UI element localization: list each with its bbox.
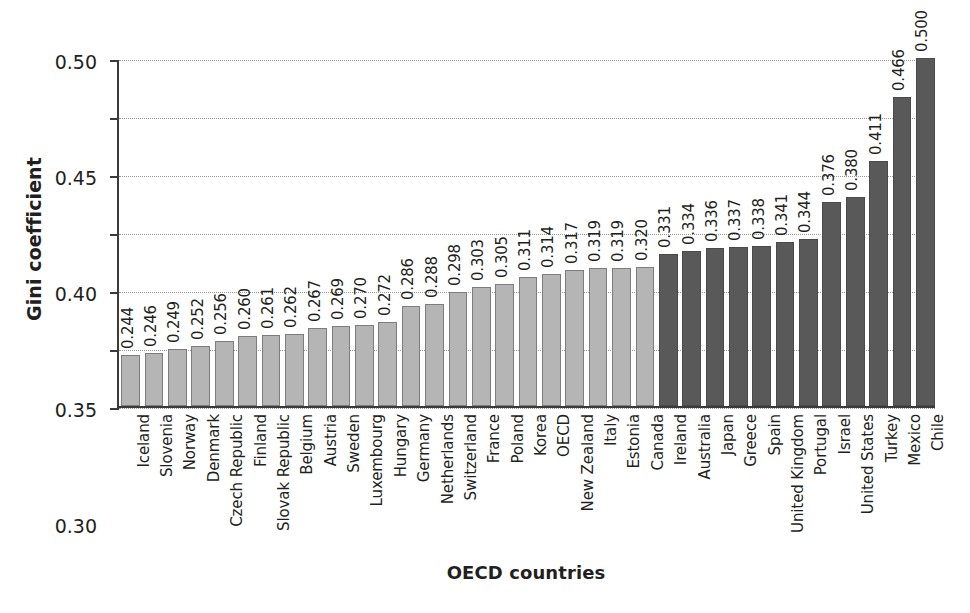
bar-slot: 0.341 [776,60,795,406]
bar[interactable] [191,346,210,406]
bar-value-label: 0.270 [352,277,370,319]
bar[interactable] [378,322,397,406]
bar[interactable] [752,246,771,406]
bar-slot: 0.319 [589,60,608,406]
bar-slot: 0.317 [565,60,584,406]
bar[interactable] [589,268,608,406]
bar[interactable] [542,274,561,406]
bar[interactable] [729,247,748,406]
bar-slot: 0.500 [916,60,935,406]
bar-value-label: 0.261 [259,287,277,329]
bar-value-label: 0.311 [516,229,534,271]
bar[interactable] [612,268,631,406]
bar-slot: 0.262 [285,60,304,406]
bar-value-label: 0.249 [165,301,183,343]
bar[interactable] [893,97,912,406]
x-axis-category-label: Portugal [812,414,830,475]
bar[interactable] [682,251,701,406]
y-axis-tick-label: 0.45 [55,167,97,189]
bar[interactable] [799,239,818,406]
bar[interactable] [355,325,374,406]
bar-value-label: 0.344 [796,191,814,233]
bar[interactable] [519,277,538,406]
x-axis-category-labels: IcelandSloveniaNorwayDenmarkCzech Republ… [117,414,935,554]
bar-value-label: 0.303 [469,239,487,281]
x-axis-category-label: Greece [742,414,760,467]
bar-value-label: 0.336 [703,200,721,242]
bar-slot: 0.267 [308,60,327,406]
bar-value-label: 0.305 [493,236,511,278]
bar-slot: 0.380 [846,60,865,406]
bar[interactable] [869,161,888,406]
bar-slot: 0.252 [191,60,210,406]
bar[interactable] [776,242,795,406]
bar-value-label: 0.466 [890,50,908,92]
bar[interactable] [495,284,514,406]
y-axis-tick-label: 0.35 [55,399,97,421]
x-axis-category-label: Japan [719,414,737,455]
bar[interactable] [565,270,584,406]
bar-value-label: 0.267 [306,280,324,322]
bar-value-label: 0.319 [609,220,627,262]
x-axis-category-label: Slovenia [158,414,176,477]
bar-slot: 0.249 [168,60,187,406]
bar-slot: 0.272 [378,60,397,406]
bar-slot: 0.319 [612,60,631,406]
bar-value-label: 0.262 [282,286,300,328]
bar-slot: 0.344 [799,60,818,406]
x-axis-category-label: Finland [252,414,270,467]
x-axis-category-label: Luxembourg [368,414,386,507]
bar[interactable] [308,328,327,406]
bar-slot: 0.376 [822,60,841,406]
x-axis-category-label: United Kingdom [789,414,807,533]
bar[interactable] [706,248,725,406]
bar[interactable] [215,341,234,406]
bar-slot: 0.270 [355,60,374,406]
bar[interactable] [916,58,935,406]
bar[interactable] [472,287,491,406]
bar[interactable] [262,335,281,406]
bar[interactable] [449,292,468,406]
bar[interactable] [332,326,351,406]
bar[interactable] [168,349,187,406]
bar-value-label: 0.337 [726,199,744,241]
bar-slot: 0.303 [472,60,491,406]
bar-value-label: 0.320 [633,219,651,261]
bar-value-label: 0.500 [913,10,931,52]
x-axis-category-label: Belgium [298,414,316,475]
bar-value-label: 0.334 [680,203,698,245]
bar[interactable] [285,334,304,406]
bar-slot: 0.269 [332,60,351,406]
y-axis-tick-label: 0.40 [55,283,97,305]
bar-slot: 0.336 [706,60,725,406]
y-axis-tick: 0.50 [110,60,119,62]
x-axis-category-label: Australia [696,414,714,479]
bar[interactable] [425,304,444,406]
x-axis-category-label: New Zealand [579,414,597,511]
x-axis-category-label: Turkey [883,414,901,462]
bar-slot: 0.334 [682,60,701,406]
bar[interactable] [636,267,655,406]
x-axis-category-label: Sweden [345,414,363,473]
bar[interactable] [402,306,421,406]
bar[interactable] [238,336,257,406]
x-axis-category-label: Chile [929,414,947,451]
x-axis-category-label: Spain [766,414,784,455]
gini-coefficient-bar-chart: Gini coefficient 0.500.450.400.350.300.2… [0,0,970,613]
bar[interactable] [145,353,164,406]
bar[interactable] [846,197,865,406]
x-axis-category-label: Iceland [135,414,153,468]
x-axis-category-label: Denmark [205,414,223,482]
x-axis-category-label: France [485,414,503,463]
y-axis-title: Gini coefficient [23,109,45,369]
bar[interactable] [822,202,841,406]
bar-slot: 0.261 [262,60,281,406]
y-axis-tick: 0.20 [110,408,119,410]
bar[interactable] [659,254,678,406]
bar-value-label: 0.244 [119,307,137,349]
y-axis-tick: 0.45 [110,118,119,120]
x-axis-category-label: Hungary [392,414,410,477]
bar[interactable] [121,355,140,406]
bar-value-label: 0.380 [843,149,861,191]
bar-value-label: 0.286 [399,258,417,300]
